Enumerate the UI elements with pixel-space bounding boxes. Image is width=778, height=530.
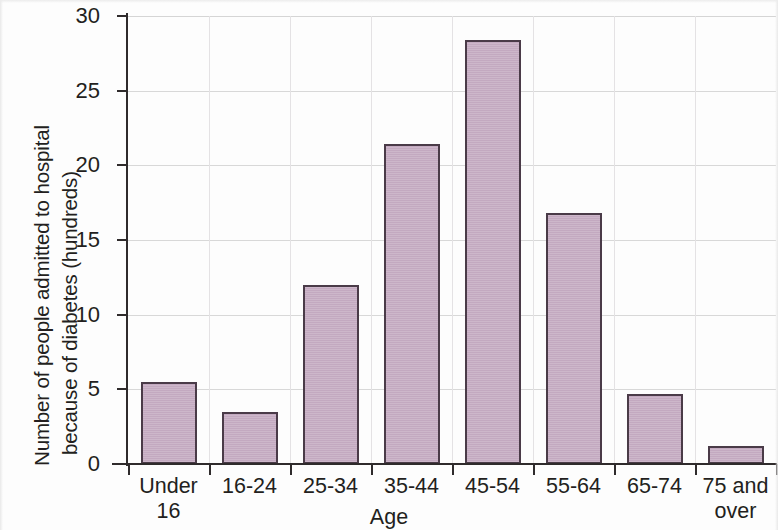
y-axis-tick xyxy=(117,314,128,316)
vertical-gridline xyxy=(452,16,453,464)
x-axis-category-label: 65-74 xyxy=(614,474,695,499)
y-axis-tick-label: 0 xyxy=(58,453,100,475)
bar xyxy=(465,40,521,464)
x-axis-category-label: 45-54 xyxy=(452,474,533,499)
x-axis-category-label-line-1: 45-54 xyxy=(465,474,520,498)
y-axis-tick xyxy=(117,164,128,166)
y-axis-tick xyxy=(117,239,128,241)
x-axis-category-label-line-1: 55-64 xyxy=(546,474,601,498)
x-axis-category-label: 55-64 xyxy=(533,474,614,499)
x-axis-category-label: 16-24 xyxy=(209,474,290,499)
plot-area xyxy=(128,16,776,464)
bar xyxy=(141,382,197,464)
x-axis-category-label-line-1: Under xyxy=(139,474,198,498)
x-axis-category-label: 25-34 xyxy=(290,474,371,499)
vertical-gridline xyxy=(614,16,615,464)
x-axis-title: Age xyxy=(0,505,778,530)
page-edge-top xyxy=(0,0,778,3)
x-axis-category-label-line-1: 16-24 xyxy=(222,474,277,498)
y-axis-tick-label: 5 xyxy=(58,378,100,400)
y-axis-tick-label: 20 xyxy=(58,154,100,176)
y-axis-tick-label: 25 xyxy=(58,80,100,102)
x-axis-category-label-line-1: 35-44 xyxy=(384,474,439,498)
y-axis-tick-label: 15 xyxy=(58,229,100,251)
bar xyxy=(627,394,683,464)
vertical-gridline xyxy=(533,16,534,464)
x-axis-category-label: 35-44 xyxy=(371,474,452,499)
vertical-gridline xyxy=(209,16,210,464)
y-axis-tick xyxy=(117,15,128,17)
vertical-gridline xyxy=(695,16,696,464)
y-axis-title-line-1: Number of people admitted to hospital xyxy=(30,125,54,466)
bar xyxy=(546,213,602,464)
y-axis-tick xyxy=(117,90,128,92)
bar-chart: Number of people admitted to hospital be… xyxy=(0,0,778,530)
x-axis-category-label-line-1: 75 and xyxy=(703,474,769,498)
bar xyxy=(222,412,278,464)
y-axis-tick xyxy=(117,463,128,465)
x-axis-line xyxy=(112,463,777,465)
y-axis-tick-label: 10 xyxy=(58,304,100,326)
y-axis-tick xyxy=(117,388,128,390)
x-axis-category-label-line-1: 25-34 xyxy=(303,474,358,498)
y-axis-tick-label: 30 xyxy=(58,5,100,27)
bar xyxy=(708,446,764,464)
bar xyxy=(384,144,440,464)
vertical-gridline xyxy=(371,16,372,464)
vertical-gridline xyxy=(290,16,291,464)
x-axis-category-label-line-1: 65-74 xyxy=(627,474,682,498)
bar xyxy=(303,285,359,464)
